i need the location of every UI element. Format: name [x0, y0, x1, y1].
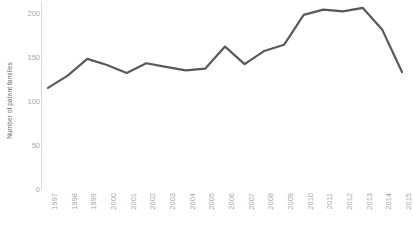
- x-axis-tick-label: 1997: [51, 193, 59, 210]
- x-axis-tick-labels: 1997199819992000200120022003200420052006…: [44, 193, 413, 231]
- x-axis-tick-label: 2004: [189, 193, 197, 210]
- x-axis-tick-label: 2002: [149, 193, 157, 210]
- y-axis-tick-labels: 050100150200: [14, 0, 40, 231]
- x-axis-tick-label: 2009: [287, 193, 295, 210]
- chart-container: Number of patent families 050100150200 1…: [0, 0, 413, 231]
- x-axis-tick-label: 2001: [130, 193, 138, 210]
- y-axis-tick-label: 50: [14, 142, 40, 150]
- y-axis-line: [41, 1, 42, 190]
- x-axis-tick-label: 1998: [71, 193, 79, 210]
- x-axis-tick-label: 2015: [405, 193, 413, 210]
- x-axis-tick-label: 2005: [208, 193, 216, 210]
- x-axis-tick-label: 2006: [228, 193, 236, 210]
- x-axis-tick-label: 2011: [326, 193, 334, 209]
- x-axis-tick-label: 2003: [169, 193, 177, 210]
- y-axis-tick-label: 150: [14, 54, 40, 62]
- x-axis-tick-label: 2000: [110, 193, 118, 210]
- x-axis-tick-label: 2013: [366, 193, 374, 210]
- x-axis-tick-label: 1999: [90, 193, 98, 210]
- x-axis-tick-label: 2010: [307, 193, 315, 210]
- series-line-number-of-patent-families: [48, 8, 402, 88]
- x-axis-tick-label: 2007: [248, 193, 256, 210]
- y-axis-tick-label: 0: [14, 186, 40, 194]
- x-axis-tick-label: 2008: [267, 193, 275, 210]
- y-axis-tick-label: 200: [14, 10, 40, 18]
- y-axis-tick-label: 100: [14, 98, 40, 106]
- y-axis-title-text: Number of patent families: [6, 62, 13, 139]
- x-axis-tick-label: 2012: [346, 193, 354, 210]
- x-axis-tick-label: 2014: [385, 193, 393, 210]
